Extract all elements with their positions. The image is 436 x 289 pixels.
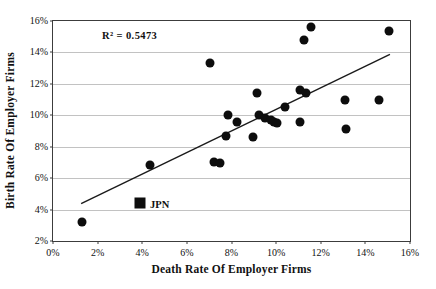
- x-tick-label: 6%: [180, 247, 193, 259]
- x-tick: [186, 241, 187, 244]
- x-tick-label: 12%: [312, 247, 330, 259]
- x-tick: [320, 241, 321, 244]
- x-tick: [231, 241, 232, 244]
- scatter-chart-figure: Birth Rate Of Employer Firms R² = 0.5473…: [0, 0, 436, 289]
- data-point: [302, 89, 311, 98]
- y-tick-label: 14%: [16, 46, 48, 58]
- data-point: [253, 88, 262, 97]
- data-point: [221, 131, 230, 140]
- point-label: JPN: [150, 198, 169, 209]
- data-point: [224, 111, 233, 120]
- x-tick: [276, 241, 277, 244]
- data-point: [233, 118, 242, 127]
- x-tick-label: 16%: [401, 247, 419, 259]
- x-axis-title: Death Rate Of Employer Firms: [52, 263, 411, 275]
- data-point: [78, 218, 87, 227]
- x-tick: [410, 241, 411, 244]
- data-point: [216, 159, 225, 168]
- y-tick-label: 8%: [16, 141, 48, 153]
- y-tick-label: 10%: [16, 109, 48, 121]
- x-tick: [365, 241, 366, 244]
- x-tick-label: 4%: [136, 247, 149, 259]
- x-tick: [97, 241, 98, 244]
- y-axis-title: Birth Rate Of Employer Firms: [4, 20, 16, 241]
- x-tick: [142, 241, 143, 244]
- x-tick-label: 14%: [356, 247, 374, 259]
- y-tick-label: 2%: [16, 235, 48, 247]
- data-point-square: [135, 198, 146, 209]
- data-point: [342, 124, 351, 133]
- x-tick-label: 8%: [225, 247, 238, 259]
- trend-line: [53, 21, 410, 241]
- x-tick-label: 0%: [46, 247, 59, 259]
- data-point: [206, 58, 215, 67]
- data-point: [300, 35, 309, 44]
- data-point: [248, 133, 257, 142]
- data-point: [273, 119, 282, 128]
- y-tick-label: 12%: [16, 78, 48, 90]
- y-tick-label: 6%: [16, 172, 48, 184]
- data-point: [307, 22, 316, 31]
- x-tick-label: 10%: [267, 247, 285, 259]
- data-point: [146, 160, 155, 169]
- plot-area: R² = 0.5473 JPN: [52, 20, 411, 242]
- x-tick-label: 2%: [91, 247, 104, 259]
- data-point: [341, 95, 350, 104]
- data-point: [295, 117, 304, 126]
- data-point: [281, 103, 290, 112]
- x-tick: [53, 241, 54, 244]
- y-tick-label: 4%: [16, 204, 48, 216]
- data-point: [374, 95, 383, 104]
- y-tick-label: 16%: [16, 15, 48, 27]
- data-point: [384, 27, 393, 36]
